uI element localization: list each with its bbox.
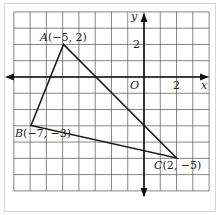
y-tick-label: 2 [133,38,140,51]
point-c-label: C(2, −5) [154,159,201,172]
x-tick-label: 2 [173,79,180,92]
point-b-label: B(−7, −3) [14,127,71,140]
y-axis-arrow-down-icon [141,188,148,197]
origin-label: O [130,79,139,92]
coordinate-plane: y 2 O 2 x A(−5, 2) B(−7, −3) C(2, −5) [0,0,218,215]
triangle-abc [31,44,177,158]
point-a-label: A(−5, 2) [39,31,87,44]
x-axis-arrow-left-icon [5,74,14,81]
y-axis-label: y [130,10,138,23]
x-axis-label: x [201,79,208,92]
y-axis-arrow-up-icon [141,13,148,22]
